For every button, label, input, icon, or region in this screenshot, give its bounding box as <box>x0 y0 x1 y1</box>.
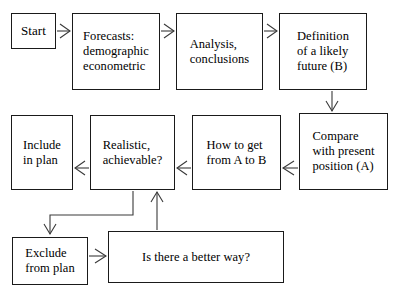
node-realistic[interactable]: Realistic, achievable? <box>90 115 175 190</box>
edge-realistic-to-include <box>75 161 89 175</box>
edge-start-to-forecasts <box>57 24 70 38</box>
node-exclude-from-plan-label: Exclude from plan <box>25 246 74 276</box>
edge-analysis-to-definition <box>264 24 277 38</box>
edge-definition-to-compare <box>326 91 338 111</box>
node-definition[interactable]: Definition of a likely future (B) <box>279 13 367 90</box>
node-definition-label: Definition of a likely future (B) <box>297 29 349 73</box>
edge-exclude-to-better <box>89 249 106 263</box>
edge-better-to-realistic <box>151 192 163 230</box>
node-include-in-plan[interactable]: Include in plan <box>11 115 73 190</box>
node-start-label: Start <box>21 23 46 38</box>
node-better-way[interactable]: Is there a better way? <box>108 231 284 283</box>
edge-forecasts-to-analysis <box>161 24 174 38</box>
node-compare[interactable]: Compare with present position (A) <box>299 113 388 190</box>
node-start[interactable]: Start <box>11 13 56 49</box>
node-include-in-plan-label: Include in plan <box>23 138 61 168</box>
node-forecasts-label: Forecasts: demographic econometric <box>83 29 149 73</box>
node-analysis-label: Analysis, conclusions <box>190 37 250 67</box>
node-forecasts[interactable]: Forecasts: demographic econometric <box>72 13 160 90</box>
node-how-to-get-label: How to get from A to B <box>207 138 267 168</box>
node-realistic-label: Realistic, achievable? <box>103 138 163 168</box>
edge-howto-to-realistic <box>177 161 191 175</box>
flowchart-diagram: Start Forecasts: demographic econometric… <box>0 0 399 296</box>
node-analysis[interactable]: Analysis, conclusions <box>176 13 263 90</box>
edge-compare-to-howto <box>283 161 298 175</box>
node-how-to-get[interactable]: How to get from A to B <box>192 115 281 190</box>
edge-realistic-to-exclude <box>44 191 133 234</box>
node-exclude-from-plan[interactable]: Exclude from plan <box>12 237 88 285</box>
node-better-way-label: Is there a better way? <box>142 250 250 265</box>
node-compare-label: Compare with present position (A) <box>312 129 374 173</box>
